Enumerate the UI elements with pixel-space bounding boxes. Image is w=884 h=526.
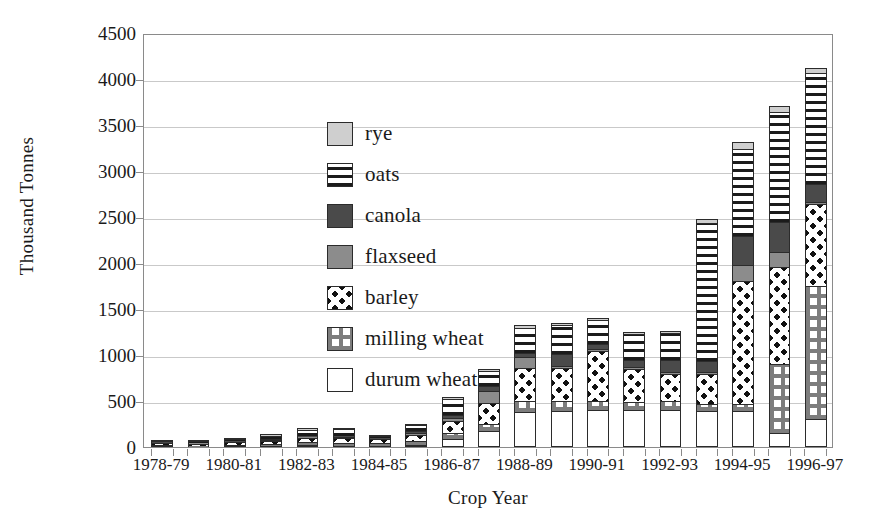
bar-segment-barley[interactable] [514, 368, 536, 401]
bar-segment-flaxseed[interactable] [732, 265, 754, 281]
bar-segment-flaxseed[interactable] [442, 418, 464, 421]
bar-segment-oats[interactable] [551, 325, 573, 354]
bar-segment-oats[interactable] [224, 439, 246, 441]
bar-segment-durum[interactable] [769, 433, 791, 447]
bar-segment-canola[interactable] [805, 184, 827, 202]
bar-segment-canola[interactable] [551, 354, 573, 366]
bar-segment-barley[interactable] [151, 443, 173, 445]
bar-segment-barley[interactable] [623, 369, 645, 402]
bar-segment-milling[interactable] [660, 401, 682, 411]
bar-segment-milling[interactable] [732, 404, 754, 411]
bar-segment-barley[interactable] [551, 368, 573, 401]
bar-segment-milling[interactable] [587, 401, 609, 410]
legend-item-durum[interactable]: durum wheat [327, 359, 484, 400]
bar-segment-rye[interactable] [333, 428, 355, 430]
bar-segment-oats[interactable] [333, 429, 355, 435]
bar-segment-milling[interactable] [369, 443, 391, 445]
bar-group[interactable] [805, 33, 827, 447]
bar-segment-barley[interactable] [587, 351, 609, 401]
bar-segment-rye[interactable] [660, 331, 682, 333]
bar-segment-oats[interactable] [769, 112, 791, 222]
bar-segment-flaxseed[interactable] [805, 202, 827, 204]
bar-group[interactable] [769, 33, 791, 447]
bar-segment-oats[interactable] [587, 320, 609, 343]
bar-group[interactable] [551, 33, 573, 447]
bar-segment-rye[interactable] [151, 440, 173, 442]
bar-segment-barley[interactable] [188, 444, 210, 446]
legend-item-barley[interactable]: barley [327, 277, 484, 318]
bar-segment-canola[interactable] [732, 236, 754, 265]
bar-segment-barley[interactable] [769, 267, 791, 365]
bar-segment-durum[interactable] [587, 410, 609, 447]
bar-segment-milling[interactable] [405, 441, 427, 445]
bar-segment-oats[interactable] [297, 430, 319, 436]
bar-segment-flaxseed[interactable] [696, 372, 718, 374]
bar-segment-oats[interactable] [623, 334, 645, 360]
bar-segment-rye[interactable] [769, 106, 791, 112]
bar-segment-barley[interactable] [260, 441, 282, 444]
bar-segment-milling[interactable] [478, 424, 500, 430]
bar-segment-canola[interactable] [297, 435, 319, 437]
bar-segment-canola[interactable] [769, 222, 791, 252]
bar-group[interactable] [660, 33, 682, 447]
bar-segment-rye[interactable] [369, 435, 391, 437]
bar-segment-canola[interactable] [405, 431, 427, 433]
bar-segment-durum[interactable] [478, 431, 500, 447]
bar-segment-flaxseed[interactable] [623, 367, 645, 370]
bar-segment-oats[interactable] [805, 73, 827, 184]
bar-segment-oats[interactable] [405, 425, 427, 431]
bar-segment-oats[interactable] [732, 149, 754, 236]
bar-segment-barley[interactable] [696, 374, 718, 404]
bar-segment-milling[interactable] [623, 402, 645, 410]
bar-segment-rye[interactable] [732, 142, 754, 148]
bar-segment-oats[interactable] [660, 333, 682, 359]
bar-segment-barley[interactable] [478, 403, 500, 424]
bar-segment-milling[interactable] [442, 433, 464, 439]
bar-segment-rye[interactable] [405, 424, 427, 426]
bar-segment-flaxseed[interactable] [660, 372, 682, 374]
bar-segment-durum[interactable] [732, 411, 754, 447]
bar-segment-rye[interactable] [188, 440, 210, 442]
bar-segment-rye[interactable] [297, 428, 319, 430]
bar-group[interactable] [514, 33, 536, 447]
bar-segment-barley[interactable] [333, 438, 355, 443]
bar-segment-barley[interactable] [369, 439, 391, 443]
bar-segment-durum[interactable] [696, 411, 718, 447]
bar-segment-barley[interactable] [297, 438, 319, 442]
bar-segment-milling[interactable] [514, 401, 536, 412]
bar-segment-rye[interactable] [514, 325, 536, 328]
bar-segment-oats[interactable] [369, 436, 391, 438]
bar-segment-milling[interactable] [769, 364, 791, 433]
bar-segment-milling[interactable] [333, 443, 355, 446]
bar-segment-rye[interactable] [260, 434, 282, 436]
bar-segment-rye[interactable] [805, 68, 827, 73]
bar-segment-flaxseed[interactable] [769, 252, 791, 267]
bar-segment-canola[interactable] [587, 344, 609, 349]
legend-item-oats[interactable]: oats [327, 154, 484, 195]
bar-segment-rye[interactable] [696, 219, 718, 223]
bar-group[interactable] [587, 33, 609, 447]
bar-segment-durum[interactable] [805, 419, 827, 447]
bar-segment-canola[interactable] [623, 360, 645, 366]
bar-group[interactable] [260, 33, 282, 447]
bar-segment-durum[interactable] [660, 410, 682, 447]
bar-segment-durum[interactable] [297, 445, 319, 447]
bar-segment-barley[interactable] [405, 435, 427, 441]
bar-segment-barley[interactable] [805, 204, 827, 286]
bar-segment-milling[interactable] [151, 445, 173, 447]
bar-segment-oats[interactable] [514, 328, 536, 353]
bar-segment-oats[interactable] [151, 441, 173, 443]
bar-segment-flaxseed[interactable] [514, 357, 536, 368]
bar-segment-durum[interactable] [442, 439, 464, 447]
bar-segment-milling[interactable] [551, 401, 573, 410]
bar-group[interactable] [188, 33, 210, 447]
legend-item-flaxseed[interactable]: flaxseed [327, 236, 484, 277]
bar-group[interactable] [696, 33, 718, 447]
bar-segment-durum[interactable] [514, 412, 536, 447]
bar-segment-barley[interactable] [660, 374, 682, 401]
bar-group[interactable] [224, 33, 246, 447]
bar-segment-flaxseed[interactable] [587, 349, 609, 351]
bar-segment-milling[interactable] [696, 404, 718, 410]
bar-segment-milling[interactable] [805, 286, 827, 419]
bar-segment-rye[interactable] [551, 323, 573, 325]
